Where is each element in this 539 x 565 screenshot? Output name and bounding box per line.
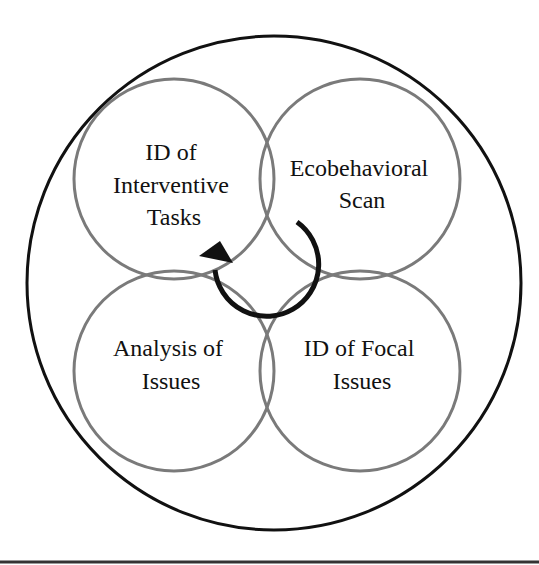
label-bottom-right: ID of Focal Issues: [304, 335, 421, 394]
cycle-diagram: ID of Interventive Tasks Ecobehavioral S…: [0, 0, 539, 565]
label-top-right: Ecobehavioral Scan: [290, 155, 435, 213]
label-bottom-left: Analysis of Issues: [113, 335, 229, 394]
label-top-left: ID of Interventive Tasks: [113, 139, 235, 230]
